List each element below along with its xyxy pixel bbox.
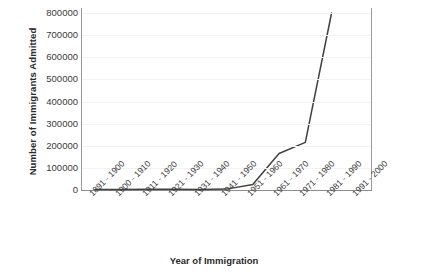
y-tick-label: 700000 — [22, 30, 78, 40]
y-tick-label: 200000 — [22, 141, 78, 151]
y-axis-tick-labels: 0100000200000300000400000500000600000700… — [22, 0, 78, 276]
y-tick-label: 300000 — [22, 119, 78, 129]
y-tick-label: 100000 — [22, 163, 78, 173]
gridline — [82, 146, 371, 147]
y-tick-label: 0 — [22, 185, 78, 195]
y-tick-label: 500000 — [22, 74, 78, 84]
gridline — [82, 57, 371, 58]
x-axis-tick-labels: 1891 - 19001900 - 19101911 - 19201921 - … — [82, 191, 371, 251]
y-tick-label: 600000 — [22, 52, 78, 62]
y-tick-label: 400000 — [22, 97, 78, 107]
x-axis-title: Year of Immigration — [0, 255, 428, 266]
immigration-line-chart: Number of Immigrants Admitted 0100000200… — [0, 0, 428, 276]
gridline — [82, 102, 371, 103]
gridline — [82, 79, 371, 80]
y-tick-label: 800000 — [22, 8, 78, 18]
gridline — [82, 35, 371, 36]
gridline — [82, 13, 371, 14]
gridline — [82, 124, 371, 125]
